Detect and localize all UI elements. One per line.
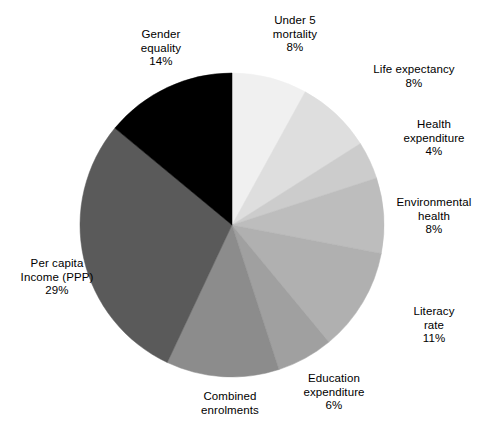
- slice-label-line1: Environmental: [376, 196, 492, 210]
- slice-label-percent: 8%: [376, 223, 492, 237]
- slice-label-line2: mortality: [236, 28, 354, 42]
- slice-label-percent: 6%: [278, 399, 390, 413]
- slice-label-environmental-health: Environmental health 8%: [376, 196, 492, 237]
- slice-label-line1: Health: [380, 118, 488, 132]
- slice-label-line1: Literacy: [384, 305, 484, 319]
- slice-label-percent: 8%: [236, 41, 354, 55]
- slice-label-life-expectancy: Life expectancy 8%: [340, 63, 488, 90]
- slice-label-per-capita-income: Per capita Income (PPP) 29%: [2, 257, 112, 298]
- pie-slice-group: [80, 73, 384, 377]
- slice-label-line1: Education: [278, 372, 390, 386]
- slice-label-percent: 11%: [384, 332, 484, 346]
- slice-label-percent: 4%: [380, 145, 488, 159]
- slice-label-under-5-mortality: Under 5 mortality 8%: [236, 14, 354, 55]
- pie-chart-figure: Under 5 mortality 8% Life expectancy 8% …: [0, 0, 492, 432]
- slice-label-education-expenditure: Education expenditure 6%: [278, 372, 390, 413]
- slice-label-line2: enrolments: [174, 404, 286, 418]
- slice-label-literacy-rate: Literacy rate 11%: [384, 305, 484, 346]
- slice-label-combined-enrolments: Combined enrolments: [174, 390, 286, 417]
- slice-label-line1: Per capita: [2, 257, 112, 271]
- slice-label-line1: Under 5: [236, 14, 354, 28]
- slice-label-health-expenditure: Health expenditure 4%: [380, 118, 488, 159]
- slice-label-line2: equality: [106, 42, 216, 56]
- slice-label-line2: expenditure: [278, 386, 390, 400]
- slice-label-line1: Gender: [106, 28, 216, 42]
- slice-label-line2: health: [376, 210, 492, 224]
- slice-label-line2: expenditure: [380, 132, 488, 146]
- slice-label-percent: 14%: [106, 55, 216, 69]
- slice-label-line1: Combined: [174, 390, 286, 404]
- slice-label-line1: Life expectancy: [340, 63, 488, 77]
- slice-label-gender-equality: Gender equality 14%: [106, 28, 216, 69]
- slice-label-percent: 29%: [2, 284, 112, 298]
- slice-label-line2: Income (PPP): [2, 271, 112, 285]
- slice-label-percent: 8%: [340, 77, 488, 91]
- slice-label-line2: rate: [384, 319, 484, 333]
